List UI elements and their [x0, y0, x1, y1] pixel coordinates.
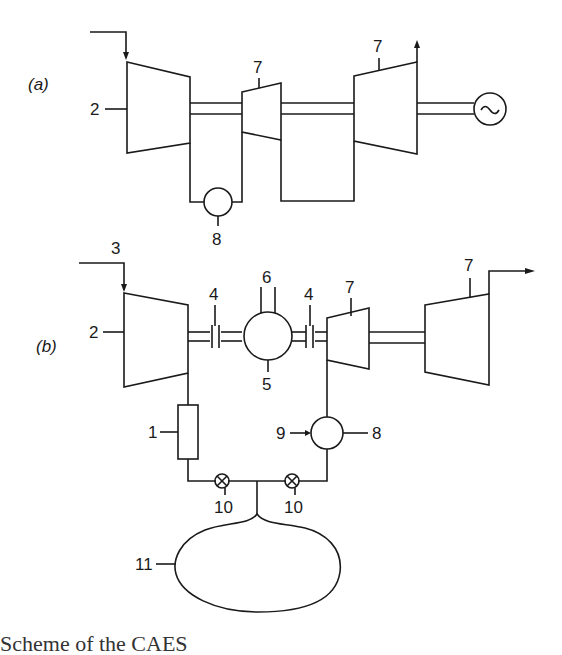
- hp-turbine: [327, 308, 369, 369]
- label-5: 5: [262, 375, 271, 394]
- label-2: 2: [89, 323, 98, 342]
- label-7: 7: [464, 256, 473, 275]
- label-8: 8: [212, 230, 221, 249]
- label-10: 10: [284, 498, 303, 517]
- ac-wave-icon: [481, 107, 499, 114]
- compressor: [127, 62, 190, 153]
- label-4: 4: [209, 285, 218, 304]
- pipe: [298, 449, 327, 481]
- lp-turbine: [425, 294, 489, 385]
- label-3: 3: [111, 239, 120, 258]
- label-1: 1: [148, 423, 157, 442]
- lp-turbine: [354, 62, 417, 154]
- pipe: [188, 459, 216, 481]
- air-storage-cavern: [175, 514, 340, 612]
- motor-generator: [244, 312, 292, 360]
- label-2: 2: [90, 100, 99, 119]
- label-7: 7: [373, 37, 382, 56]
- label-8: 8: [372, 424, 381, 443]
- cooler: [178, 405, 198, 459]
- compressor: [124, 293, 188, 387]
- exhaust-arrow-icon: [414, 40, 420, 48]
- pipe: [281, 140, 354, 201]
- panel-b: (b) 3 2 4 6 5 4: [36, 239, 535, 612]
- inlet-arrow-icon: [121, 284, 127, 292]
- inlet-arrow-icon: [123, 52, 129, 60]
- air-inlet-line: [79, 263, 124, 290]
- combustor: [311, 417, 343, 449]
- hp-turbine: [242, 83, 281, 140]
- label-6: 6: [262, 268, 271, 287]
- pipe: [190, 143, 204, 202]
- pipe: [232, 132, 242, 202]
- panel-a: (a) 2 7 7 8: [28, 32, 506, 249]
- exhaust-arrow-icon: [525, 268, 535, 274]
- air-inlet-line: [90, 32, 126, 58]
- label-4: 4: [304, 285, 313, 304]
- label-7: 7: [345, 278, 354, 297]
- label-7: 7: [253, 58, 262, 77]
- panel-b-label: (b): [36, 337, 57, 356]
- label-11: 11: [135, 555, 153, 574]
- exhaust-line: [489, 271, 530, 294]
- panel-a-label: (a): [28, 75, 49, 94]
- fuel-arrow-icon: [305, 430, 311, 436]
- figure-caption: Scheme of the CAES: [0, 631, 188, 655]
- label-10: 10: [214, 498, 233, 517]
- label-9: 9: [276, 424, 285, 443]
- combustor: [204, 188, 232, 216]
